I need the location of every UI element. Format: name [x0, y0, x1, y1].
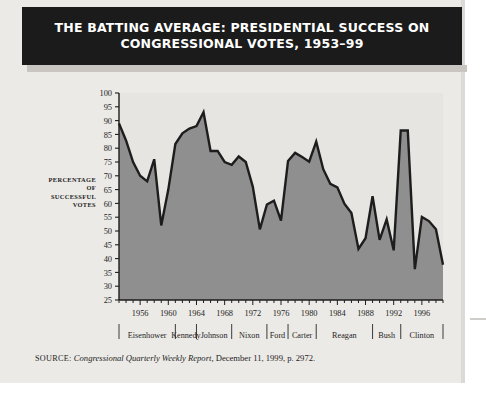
x-axis-tick-label: 1972	[244, 309, 261, 318]
administration-label-reagan: Reagan	[332, 331, 357, 340]
x-axis-tick-label: 1960	[160, 309, 177, 318]
y-axis-tick-label: 100	[99, 89, 112, 98]
y-axis-tick-label: 40	[104, 255, 112, 264]
y-axis-tick-label: 30	[104, 282, 112, 291]
administration-label-clinton: Clinton	[410, 331, 435, 340]
chart-title-line-2: CONGRESSIONAL VOTES, 1953–99	[55, 36, 430, 52]
page-root: THE BATTING AVERAGE: PRESIDENTIAL SUCCES…	[0, 0, 486, 399]
administration-label-eisenhower: Eisenhower	[128, 331, 167, 340]
administration-label-bush: Bush	[378, 331, 395, 340]
administration-label-nixon: Nixon	[239, 331, 259, 340]
y-axis-tick-label: 50	[104, 227, 112, 236]
y-axis-tick-label: 45	[104, 241, 112, 250]
source-label: SOURCE:	[35, 354, 72, 363]
y-axis-tick-label: 75	[104, 158, 112, 167]
x-axis-tick-label: 1992	[385, 309, 402, 318]
x-axis-tick-label: 1996	[413, 309, 430, 318]
x-axis-tick-label: 1964	[188, 309, 206, 318]
source-publication: Congressional Quarterly Weekly Report,	[74, 353, 214, 363]
administration-label-carter: Carter	[292, 331, 313, 340]
y-axis-tick-label: 80	[104, 144, 112, 153]
administration-label-kennedy: Kennedy	[171, 331, 201, 340]
y-axis-tick-label: 35	[104, 269, 112, 278]
page-sliver-mark	[470, 318, 486, 320]
chart-title: THE BATTING AVERAGE: PRESIDENTIAL SUCCES…	[55, 20, 430, 52]
banner-shadow	[27, 65, 467, 72]
y-axis-tick-label: 70	[104, 172, 112, 181]
chart-title-line-1: THE BATTING AVERAGE: PRESIDENTIAL SUCCES…	[55, 20, 430, 35]
x-axis-tick-label: 1976	[273, 309, 290, 318]
batting-average-area-chart: 2530354045505560657075808590951001956196…	[0, 78, 461, 348]
y-axis-tick-label: 95	[104, 103, 112, 112]
y-axis-tick-label: 90	[104, 117, 112, 126]
x-axis-tick-label: 1988	[357, 309, 374, 318]
administration-label-johnson: Johnson	[201, 331, 228, 340]
administration-label-ford: Ford	[270, 331, 285, 340]
x-axis-tick-label: 1968	[216, 309, 233, 318]
y-axis-tick-label: 55	[104, 213, 112, 222]
chart-title-banner: THE BATTING AVERAGE: PRESIDENTIAL SUCCES…	[22, 7, 462, 65]
y-axis-tick-label: 65	[104, 186, 112, 195]
chart-container: 2530354045505560657075808590951001956196…	[0, 78, 461, 348]
source-note: SOURCE: Congressional Quarterly Weekly R…	[35, 353, 315, 363]
x-axis-tick-label: 1980	[301, 309, 318, 318]
y-axis-tick-label: 85	[104, 131, 112, 140]
x-axis-tick-label: 1984	[329, 309, 347, 318]
x-axis-tick-label: 1956	[132, 309, 149, 318]
y-axis-tick-label: 60	[104, 200, 112, 209]
y-axis-tick-label: 25	[104, 296, 112, 305]
source-rest: December 11, 1999, p. 2972.	[214, 353, 316, 363]
